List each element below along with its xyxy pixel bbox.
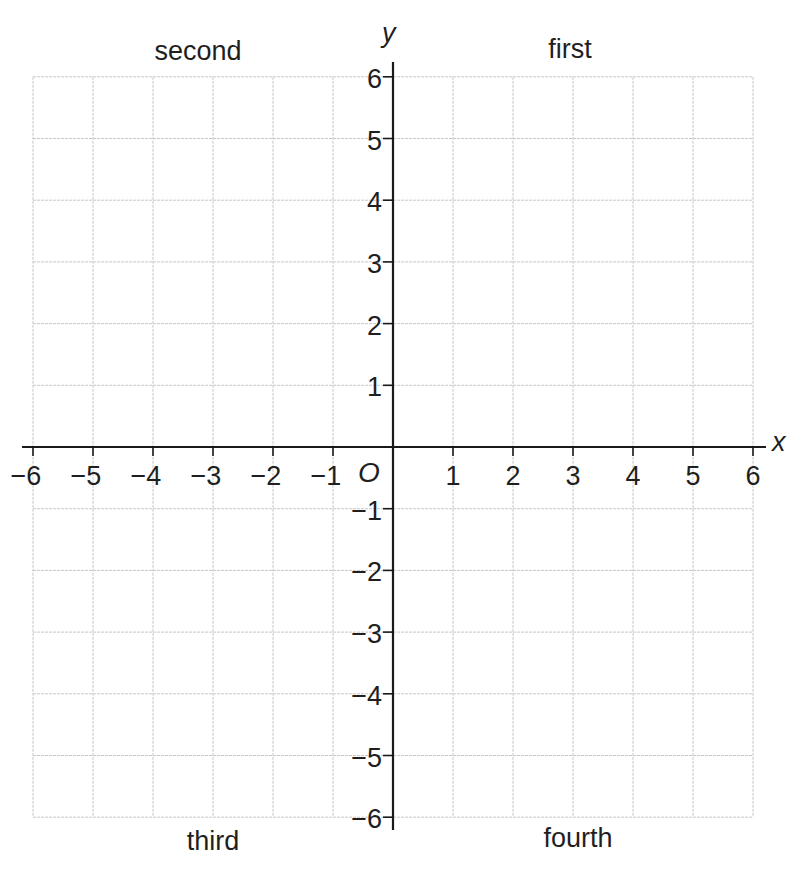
quadrant-label-first: first — [548, 34, 592, 65]
coordinate-plane — [0, 0, 811, 872]
y-tick-label: 6 — [367, 63, 382, 94]
x-tick-label: 5 — [685, 461, 700, 492]
x-tick-label: 2 — [505, 461, 520, 492]
axes — [22, 62, 766, 830]
y-tick-label: −3 — [351, 619, 382, 650]
x-tick-label: −6 — [11, 461, 42, 492]
y-tick-label: 5 — [367, 125, 382, 156]
y-tick-label: 2 — [367, 310, 382, 341]
y-tick-label: −4 — [351, 680, 382, 711]
x-tick-label: 6 — [745, 461, 760, 492]
y-tick-label: −6 — [351, 804, 382, 835]
x-tick-label: −5 — [71, 461, 102, 492]
y-axis-label: y — [382, 18, 396, 49]
y-tick-label: −2 — [351, 557, 382, 588]
x-tick-label: 4 — [625, 461, 640, 492]
x-tick-label: −4 — [131, 461, 162, 492]
x-tick-label: −1 — [311, 461, 342, 492]
quadrant-label-third: third — [187, 826, 240, 857]
y-tick-label: 3 — [367, 248, 382, 279]
quadrant-label-second: second — [154, 36, 241, 67]
y-tick-label: −1 — [351, 495, 382, 526]
y-tick-label: −5 — [351, 742, 382, 773]
x-axis-label: x — [772, 427, 786, 458]
x-tick-label: 3 — [565, 461, 580, 492]
origin-label: O — [358, 457, 380, 489]
x-tick-label: 1 — [445, 461, 460, 492]
y-tick-label: 4 — [367, 187, 382, 218]
x-tick-label: −2 — [251, 461, 282, 492]
x-tick-label: −3 — [191, 461, 222, 492]
quadrant-label-fourth: fourth — [543, 823, 612, 854]
y-tick-label: 1 — [367, 372, 382, 403]
